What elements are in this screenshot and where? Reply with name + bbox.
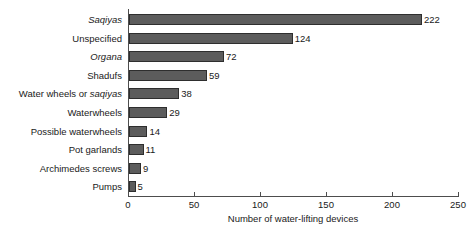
x-axis-title: Number of water-lifting devices <box>128 213 458 224</box>
x-tick-label: 150 <box>318 199 334 210</box>
x-tick-label: 200 <box>384 199 400 210</box>
x-tick-mark <box>326 192 327 197</box>
x-tick-label: 0 <box>125 199 130 210</box>
x-axis-ticks: 050100150200250 <box>0 0 476 234</box>
x-tick-mark <box>128 192 129 197</box>
x-tick-label: 250 <box>450 199 466 210</box>
bar-chart: Saqiyas222Unspecified124Organa72Shadufs5… <box>0 0 476 234</box>
x-tick-mark <box>194 192 195 197</box>
x-tick-mark <box>458 192 459 197</box>
x-tick-label: 50 <box>189 199 200 210</box>
x-tick-mark <box>392 192 393 197</box>
x-tick-label: 100 <box>252 199 268 210</box>
x-tick-mark <box>260 192 261 197</box>
